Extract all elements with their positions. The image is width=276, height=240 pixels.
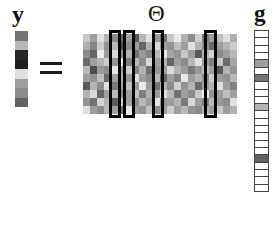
theta-cell bbox=[125, 90, 132, 98]
theta-cell bbox=[132, 90, 139, 98]
theta-cell bbox=[167, 90, 174, 98]
theta-cell bbox=[167, 66, 174, 74]
theta-cell bbox=[223, 90, 230, 98]
g-cell bbox=[255, 177, 268, 184]
theta-matrix bbox=[83, 34, 237, 114]
theta-cell bbox=[111, 66, 118, 74]
theta-cell bbox=[132, 82, 139, 90]
theta-cell bbox=[160, 90, 167, 98]
theta-cell bbox=[160, 66, 167, 74]
theta-cell bbox=[139, 50, 146, 58]
theta-cell bbox=[125, 58, 132, 66]
theta-cell bbox=[188, 66, 195, 74]
theta-cell bbox=[146, 66, 153, 74]
theta-cell bbox=[83, 106, 90, 114]
theta-cell bbox=[97, 98, 104, 106]
theta-cell bbox=[209, 90, 216, 98]
theta-cell bbox=[202, 34, 209, 42]
theta-cell bbox=[216, 106, 223, 114]
theta-cell bbox=[97, 42, 104, 50]
theta-cell bbox=[174, 34, 181, 42]
theta-cell bbox=[223, 42, 230, 50]
theta-cell bbox=[125, 74, 132, 82]
theta-cell bbox=[153, 58, 160, 66]
g-cell bbox=[255, 126, 268, 133]
theta-cell bbox=[209, 98, 216, 106]
theta-cell bbox=[90, 98, 97, 106]
theta-cell bbox=[153, 66, 160, 74]
theta-cell bbox=[167, 98, 174, 106]
y-cell bbox=[15, 69, 28, 79]
theta-cell bbox=[97, 50, 104, 58]
theta-cell bbox=[188, 90, 195, 98]
theta-cell bbox=[139, 66, 146, 74]
g-cell bbox=[255, 31, 268, 38]
g-cell bbox=[255, 185, 268, 191]
theta-cell bbox=[90, 42, 97, 50]
theta-cell bbox=[125, 106, 132, 114]
theta-cell bbox=[153, 34, 160, 42]
theta-cell bbox=[146, 90, 153, 98]
theta-cell bbox=[209, 66, 216, 74]
theta-cell bbox=[153, 74, 160, 82]
theta-cell bbox=[139, 58, 146, 66]
theta-cell bbox=[167, 74, 174, 82]
g-cell bbox=[255, 97, 268, 104]
theta-cell bbox=[195, 82, 202, 90]
theta-cell bbox=[181, 74, 188, 82]
theta-cell bbox=[195, 98, 202, 106]
theta-cell bbox=[202, 74, 209, 82]
theta-cell bbox=[209, 82, 216, 90]
g-cell bbox=[255, 133, 268, 140]
g-cell bbox=[255, 111, 268, 118]
theta-cell bbox=[174, 98, 181, 106]
theta-cell bbox=[216, 50, 223, 58]
equals-bar-top bbox=[40, 62, 62, 65]
theta-cell bbox=[139, 98, 146, 106]
theta-cell bbox=[90, 90, 97, 98]
theta-cell bbox=[181, 50, 188, 58]
y-cell bbox=[15, 41, 28, 51]
theta-cell bbox=[202, 90, 209, 98]
theta-cell bbox=[174, 66, 181, 74]
theta-cell bbox=[202, 42, 209, 50]
theta-cell bbox=[188, 106, 195, 114]
theta-cell bbox=[104, 106, 111, 114]
theta-cell bbox=[146, 106, 153, 114]
theta-cell bbox=[125, 66, 132, 74]
theta-cell bbox=[132, 98, 139, 106]
theta-cell bbox=[118, 58, 125, 66]
g-cell bbox=[255, 90, 268, 97]
theta-cell bbox=[174, 74, 181, 82]
theta-cell bbox=[83, 50, 90, 58]
theta-cell bbox=[230, 42, 237, 50]
theta-cell bbox=[167, 82, 174, 90]
theta-cell bbox=[160, 98, 167, 106]
theta-cell bbox=[125, 34, 132, 42]
theta-cell bbox=[153, 90, 160, 98]
g-cell bbox=[255, 82, 268, 89]
theta-cell bbox=[153, 42, 160, 50]
theta-cell bbox=[188, 74, 195, 82]
theta-cell bbox=[167, 34, 174, 42]
y-vector bbox=[15, 31, 28, 107]
theta-cell bbox=[195, 34, 202, 42]
theta-cell bbox=[104, 34, 111, 42]
theta-cell bbox=[209, 42, 216, 50]
theta-cell bbox=[118, 50, 125, 58]
theta-cell bbox=[181, 66, 188, 74]
theta-cell bbox=[83, 34, 90, 42]
theta-cell bbox=[97, 34, 104, 42]
theta-cell bbox=[83, 74, 90, 82]
theta-cell bbox=[181, 34, 188, 42]
g-cell bbox=[255, 170, 268, 177]
theta-cell bbox=[160, 74, 167, 82]
theta-cell bbox=[188, 58, 195, 66]
theta-cell bbox=[216, 34, 223, 42]
theta-cell bbox=[104, 42, 111, 50]
theta-cell bbox=[181, 98, 188, 106]
theta-cell bbox=[167, 50, 174, 58]
theta-cell bbox=[223, 50, 230, 58]
theta-cell bbox=[209, 58, 216, 66]
theta-cell bbox=[174, 50, 181, 58]
